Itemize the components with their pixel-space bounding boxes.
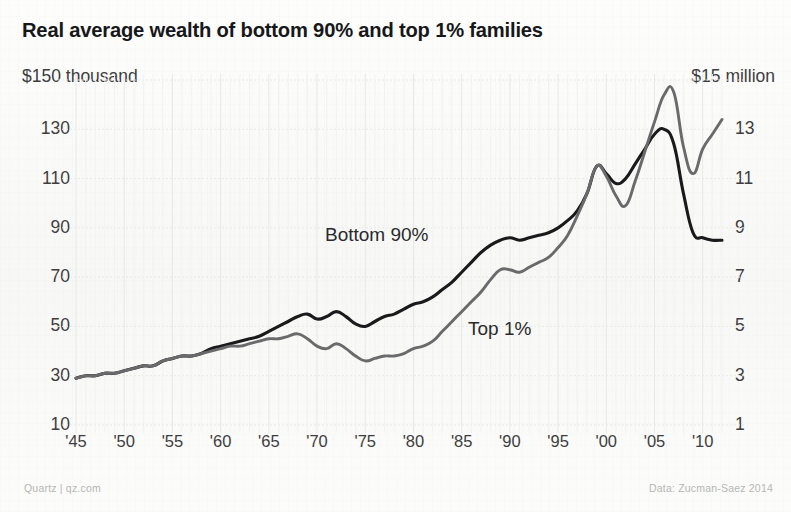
series-label-top1: Top 1%: [468, 318, 531, 340]
plot-area: [0, 0, 791, 512]
chart-figure: Real average wealth of bottom 90% and to…: [0, 0, 791, 512]
footer-source: Quartz | qz.com: [24, 482, 101, 494]
series-label-bottom90: Bottom 90%: [325, 224, 429, 246]
footer-data-credit: Data: Zucman-Saez 2014: [649, 482, 773, 494]
gridlines: [58, 74, 744, 433]
